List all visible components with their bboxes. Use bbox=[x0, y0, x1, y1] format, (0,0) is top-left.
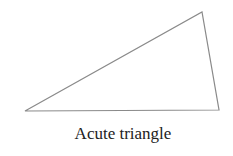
triangle-caption: Acute triangle bbox=[0, 124, 233, 144]
acute-triangle-shape bbox=[25, 12, 219, 111]
